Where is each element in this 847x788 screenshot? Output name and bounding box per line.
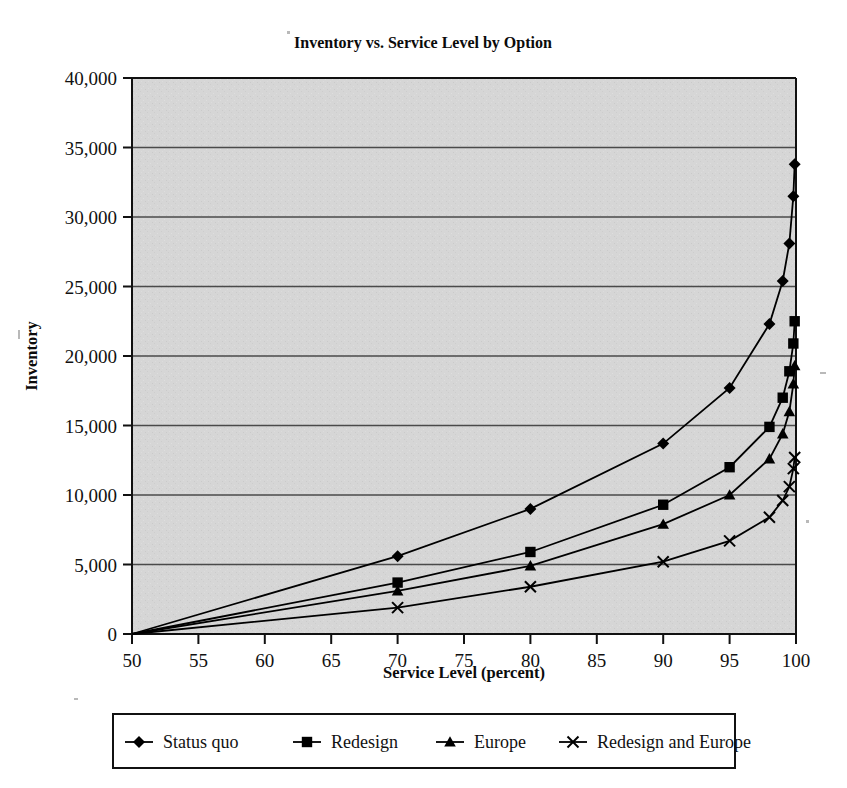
legend-marker-square [302,737,312,747]
y-tick-label: 0 [108,624,118,645]
data-point-square [788,338,798,348]
x-tick-label: 60 [255,650,274,671]
y-tick-label: 20,000 [65,346,117,367]
y-tick-label: 5,000 [74,555,117,576]
legend-label: Redesign [331,732,398,752]
y-tick-label: 10,000 [65,485,117,506]
x-tick-label: 90 [654,650,673,671]
x-tick-label: 50 [123,650,142,671]
chart-container: Inventory vs. Service Level by Option 05… [0,0,847,788]
legend-label: Status quo [163,732,239,752]
x-tick-label: 100 [782,650,811,671]
y-tick-label: 35,000 [65,138,117,159]
x-tick-label: 95 [720,650,739,671]
data-point-square [789,316,799,326]
x-tick-label: 85 [587,650,606,671]
y-axis-title: Inventory [22,320,41,390]
y-tick-label: 25,000 [65,277,117,298]
y-tick-label: 15,000 [65,416,117,437]
chart-title: Inventory vs. Service Level by Option [294,34,552,52]
x-axis-title: Service Level (percent) [383,663,545,682]
data-point-square [724,462,734,472]
y-tick-label: 30,000 [65,207,117,228]
x-tick-label: 55 [189,650,208,671]
x-tick-label: 65 [322,650,341,671]
data-point-square [764,422,774,432]
data-point-square [525,547,535,557]
y-tick-label: 40,000 [65,68,117,89]
inventory-service-level-chart: Inventory vs. Service Level by Option 05… [0,0,847,788]
data-point-square [778,393,788,403]
data-point-square [658,500,668,510]
legend-label: Europe [474,732,526,752]
legend-label: Redesign and Europe [597,732,751,752]
